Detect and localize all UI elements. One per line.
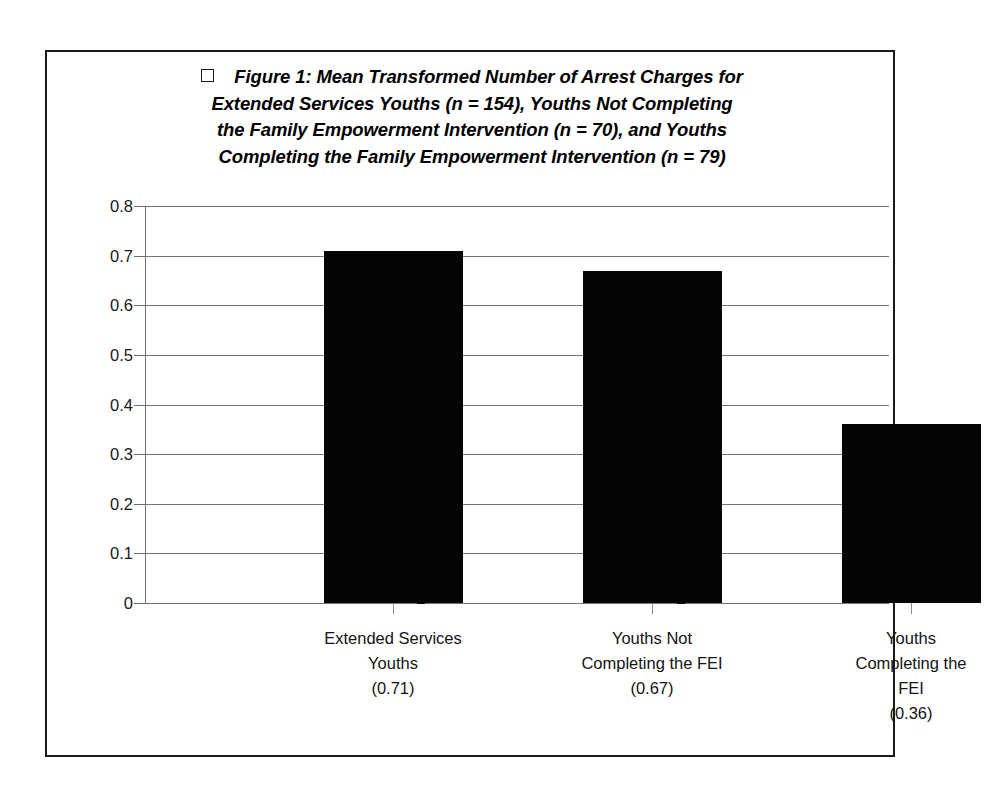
y-axis-tick-label: 0.8 bbox=[63, 198, 133, 215]
y-axis-tick bbox=[134, 256, 145, 257]
bar-3 bbox=[842, 424, 981, 603]
chart-title: Figure 1: Mean Transformed Number of Arr… bbox=[47, 64, 897, 170]
x-category-label-3: YouthsCompleting theFEI(0.36) bbox=[801, 626, 985, 726]
gridline bbox=[145, 454, 889, 455]
gridline bbox=[145, 603, 889, 604]
x-axis-tick bbox=[911, 603, 912, 614]
x-axis-tick bbox=[652, 603, 653, 614]
category-text-line: FEI bbox=[801, 676, 985, 701]
category-text-line: Youths bbox=[801, 626, 985, 651]
gridline bbox=[145, 256, 889, 257]
y-axis-tick-label: 0.3 bbox=[63, 446, 133, 463]
category-text-line: Completing the bbox=[801, 651, 985, 676]
figure-frame: Figure 1: Mean Transformed Number of Arr… bbox=[45, 50, 895, 757]
gridline bbox=[145, 405, 889, 406]
gridline bbox=[145, 305, 889, 306]
chart-title-line-4: Completing the Family Empowerment Interv… bbox=[47, 144, 897, 171]
y-axis-tick-label: 0.2 bbox=[63, 496, 133, 513]
chart-title-line-1: Figure 1: Mean Transformed Number of Arr… bbox=[47, 64, 897, 91]
x-category-label-1: Extended ServicesYouths(0.71) bbox=[283, 626, 503, 701]
y-axis-tick bbox=[134, 305, 145, 306]
y-axis-tick-label: 0.7 bbox=[63, 248, 133, 265]
y-axis-tick bbox=[134, 206, 145, 207]
bar-1 bbox=[324, 251, 463, 603]
bar-2 bbox=[583, 271, 722, 603]
category-value-label: (0.71) bbox=[283, 676, 503, 701]
gridline bbox=[145, 504, 889, 505]
x-category-label-2: Youths NotCompleting the FEI(0.67) bbox=[542, 626, 762, 701]
category-text-line: Youths bbox=[283, 651, 503, 676]
gridline bbox=[145, 206, 889, 207]
y-axis-tick-label: 0.5 bbox=[63, 347, 133, 364]
y-axis-tick-label: 0.6 bbox=[63, 297, 133, 314]
y-axis-tick-label: 0.1 bbox=[63, 545, 133, 562]
plot-area: 0.80.70.60.50.40.30.20.10 Extended Servi… bbox=[145, 206, 889, 603]
category-value-label: (0.67) bbox=[542, 676, 762, 701]
empty-square-marker-icon bbox=[201, 69, 214, 82]
y-axis-tick bbox=[134, 504, 145, 505]
y-axis-tick-label: 0.4 bbox=[63, 397, 133, 414]
chart-title-line-3: the Family Empowerment Intervention (n =… bbox=[47, 117, 897, 144]
gridline bbox=[145, 355, 889, 356]
category-text-line: Completing the FEI bbox=[542, 651, 762, 676]
category-value-label: (0.36) bbox=[801, 701, 985, 726]
y-axis-tick bbox=[134, 603, 145, 604]
y-axis-tick-label: 0 bbox=[63, 595, 133, 612]
category-text-line: Extended Services bbox=[283, 626, 503, 651]
series-marker bbox=[417, 598, 425, 604]
category-text-line: Youths Not bbox=[542, 626, 762, 651]
x-axis-tick bbox=[393, 603, 394, 614]
y-axis-tick bbox=[134, 553, 145, 554]
series-marker bbox=[677, 598, 685, 604]
gridline bbox=[145, 553, 889, 554]
y-axis-tick bbox=[134, 405, 145, 406]
chart-title-line-2: Extended Services Youths (n = 154), Yout… bbox=[47, 91, 897, 118]
y-axis-tick bbox=[134, 454, 145, 455]
chart-title-text-1: Figure 1: Mean Transformed Number of Arr… bbox=[234, 66, 743, 87]
y-axis-tick bbox=[134, 355, 145, 356]
